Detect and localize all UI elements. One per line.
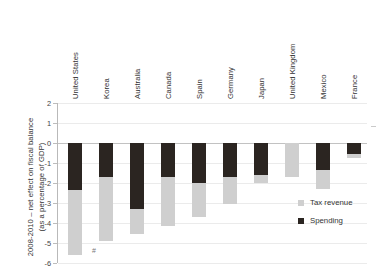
gridline (58, 263, 367, 264)
y-axis-tick (53, 243, 57, 244)
category-label: Canada (163, 72, 172, 99)
footnote-marker: # (92, 247, 96, 254)
category-label: Korea (101, 78, 110, 99)
category-label: Mexico (318, 74, 327, 99)
bar-segment-spending[interactable] (99, 143, 113, 177)
y-axis-tick-label: 0 (47, 139, 51, 148)
category-label: United States (70, 52, 79, 99)
bar-group[interactable]: Korea (99, 103, 113, 263)
bar-group[interactable]: France (347, 103, 361, 263)
bar-group[interactable]: Mexico (316, 103, 330, 263)
y-axis-tick (53, 203, 57, 204)
bar-group[interactable]: Australia (130, 103, 144, 263)
chart-legend: Tax revenue Spending (298, 198, 352, 234)
category-label: Spain (194, 79, 203, 99)
y-axis-tick (53, 123, 57, 124)
bar-segment-spending[interactable] (254, 143, 268, 175)
y-axis-tick-label: 1 (47, 119, 51, 128)
legend-item-tax-revenue: Tax revenue (298, 198, 352, 207)
tax-revenue-swatch-icon (298, 200, 304, 206)
bar-group[interactable]: Germany (223, 103, 237, 263)
bar-group[interactable]: Canada (161, 103, 175, 263)
y-axis-tick (53, 103, 57, 104)
bar-group[interactable]: United Kingdom (285, 103, 299, 263)
bar-segment-tax-revenue[interactable] (68, 190, 82, 255)
fiscal-balance-chart: 2008-2010 – net effect on fiscal balance… (0, 0, 381, 278)
bar-segment-tax-revenue[interactable] (130, 209, 144, 234)
y-axis-tick-label: -2 (44, 179, 51, 188)
bar-segment-spending[interactable] (130, 143, 144, 209)
y-axis-tick (53, 163, 57, 164)
y-axis-tick (53, 223, 57, 224)
y-axis-tick-label: -1 (44, 159, 51, 168)
legend-label-spending: Spending (310, 216, 343, 225)
legend-item-spending: Spending (298, 216, 352, 225)
bar-segment-tax-revenue[interactable] (161, 177, 175, 226)
y-axis-tick-label: -6 (44, 259, 51, 268)
bar-segment-tax-revenue[interactable] (99, 177, 113, 241)
bar-group[interactable]: Japan (254, 103, 268, 263)
bar-segment-tax-revenue[interactable] (254, 175, 268, 183)
y-axis-tick (53, 183, 57, 184)
bar-group[interactable]: United States (68, 103, 82, 263)
spending-swatch-icon (298, 218, 304, 224)
y-axis-tick-label: -4 (44, 219, 51, 228)
bar-segment-spending[interactable] (347, 143, 361, 154)
y-axis-tick-label: -3 (44, 199, 51, 208)
plot-area: 210-1-2-3-4-5-6United StatesKoreaAustral… (57, 103, 367, 263)
y-axis-tick-label: -5 (44, 239, 51, 248)
category-label: France (349, 75, 358, 99)
bar-segment-tax-revenue[interactable] (316, 170, 330, 189)
legend-label-tax-revenue: Tax revenue (310, 198, 352, 207)
right-edge-tick (371, 126, 376, 127)
category-label: United Kingdom (287, 44, 296, 99)
bar-segment-tax-revenue[interactable] (192, 183, 206, 217)
bar-segment-tax-revenue[interactable] (347, 154, 361, 158)
category-label: Australia (132, 69, 141, 99)
bar-segment-tax-revenue[interactable] (285, 143, 299, 177)
y-axis-title: 2008-2010 – net effect on fiscal balance… (26, 102, 56, 272)
bar-segment-spending[interactable] (68, 143, 82, 190)
bar-segment-spending[interactable] (223, 143, 237, 177)
y-axis-tick (53, 143, 57, 144)
bar-segment-spending[interactable] (161, 143, 175, 177)
category-label: Japan (256, 78, 265, 99)
bar-segment-spending[interactable] (192, 143, 206, 183)
bar-segment-tax-revenue[interactable] (223, 177, 237, 204)
y-axis-tick (53, 263, 57, 264)
category-label: Germany (225, 67, 234, 99)
bar-group[interactable]: Spain (192, 103, 206, 263)
y-axis-tick-label: 2 (47, 99, 51, 108)
